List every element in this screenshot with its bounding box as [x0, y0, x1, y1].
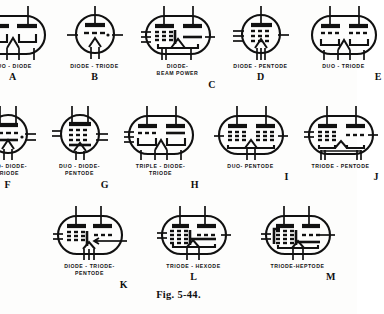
tube-label: TRIODE - PENTODE	[312, 163, 370, 170]
tube-symbol-triode-heptode: TRIODE-HEPTODE M	[258, 204, 338, 282]
diode-triode-icon	[64, 4, 126, 62]
diode-pentode-icon	[230, 4, 292, 62]
tube-label: DUO- DIODE- TRIODE	[0, 163, 27, 178]
triode-hexode-icon	[154, 204, 234, 262]
tube-symbol-duo-pentode: DUO- PENTODE I	[211, 104, 291, 182]
tube-label: TRIPLE - DIODE- TRIODE	[136, 163, 185, 178]
tube-label: DUO- PENTODE	[227, 163, 273, 170]
tube-letter: L	[190, 271, 197, 282]
tube-symbol-diode-beam-power: DIODE- BEAM POWER C	[138, 4, 218, 90]
tube-letter: B	[91, 71, 98, 82]
tube-symbol-duo-diode-pentode: DUO - DIODE- PENTODE G	[49, 104, 111, 190]
tube-symbol-diode-triode-pentode: DIODE - TRIODE- PENTODE K	[50, 204, 130, 290]
tube-letter: C	[208, 79, 215, 90]
triple-diode-triode-icon	[121, 104, 201, 162]
tube-label: DUO - DIODE- PENTODE	[59, 163, 100, 178]
tube-symbol-duo-diode-triode: DUO- DIODE- TRIODE F	[0, 104, 39, 190]
tube-row-1: DUO - DIODE A	[0, 4, 357, 90]
triode-pentode-icon	[301, 104, 381, 162]
figure-caption: Fig. 5-44.	[0, 289, 357, 300]
tube-letter: D	[257, 71, 264, 82]
tube-symbol-triode-pentode: TRIODE - PENTODE J	[301, 104, 381, 182]
duo-pentode-icon	[211, 104, 291, 162]
tube-label: TRIODE - HEXODE	[166, 263, 220, 270]
tube-row-3: DIODE - TRIODE- PENTODE K	[0, 204, 357, 290]
tube-letter: E	[375, 71, 382, 82]
duo-diode-pentode-icon	[49, 104, 111, 162]
duo-diode-triode-icon	[0, 104, 39, 162]
tube-label: DIODE- BEAM POWER	[157, 63, 199, 78]
tube-label: DUO - TRIODE	[322, 63, 364, 70]
duo-triode-icon	[304, 4, 384, 62]
tube-label: DIODE - TRIODE	[70, 63, 118, 70]
tube-label: DIODE - TRIODE- PENTODE	[64, 263, 115, 278]
triode-heptode-icon	[258, 204, 338, 262]
tube-letter: M	[326, 271, 335, 282]
tube-symbol-duo-diode: DUO - DIODE A	[0, 4, 52, 82]
tube-letter: F	[4, 179, 10, 190]
tube-symbol-diode-pentode: DIODE - PENTODE D	[230, 4, 292, 82]
tube-label: DIODE - PENTODE	[233, 63, 287, 70]
tube-symbol-duo-triode: DUO - TRIODE E	[304, 4, 384, 82]
tube-letter: I	[285, 171, 289, 182]
tube-letter: H	[191, 179, 199, 190]
tube-letter: G	[101, 179, 109, 190]
tube-letter: J	[374, 171, 379, 182]
tube-letter: A	[9, 71, 16, 82]
diode-beam-power-icon	[138, 4, 218, 62]
tube-symbol-diode-triode: DIODE - TRIODE B	[64, 4, 126, 82]
tube-label: DUO - DIODE	[0, 63, 32, 70]
tube-symbol-triode-hexode: TRIODE - HEXODE L	[154, 204, 234, 282]
tube-symbol-triple-diode-triode: TRIPLE - DIODE- TRIODE H	[121, 104, 201, 190]
diode-triode-pentode-icon	[50, 204, 130, 262]
tube-label: TRIODE-HEPTODE	[270, 263, 324, 270]
duo-diode-icon	[0, 4, 52, 62]
tube-row-2: DUO- DIODE- TRIODE F	[0, 104, 357, 190]
